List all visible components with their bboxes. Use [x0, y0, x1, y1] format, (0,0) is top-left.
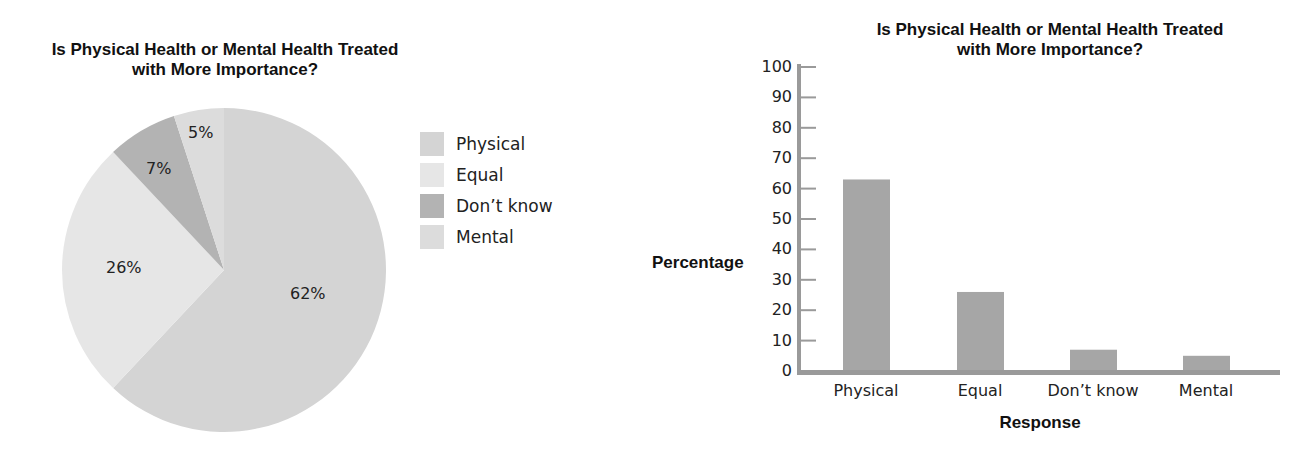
legend-label-dont-know: Don’t know: [456, 196, 553, 216]
y-axis-line: [797, 64, 801, 374]
y-tick: [799, 127, 816, 129]
x-tick-label-physical: Physical: [806, 381, 926, 400]
y-axis-label: Percentage: [652, 253, 744, 273]
y-tick: [799, 157, 816, 159]
y-tick-label: 80: [752, 118, 792, 137]
legend-swatch-physical: [420, 132, 444, 156]
y-tick-label: 100: [752, 57, 792, 76]
bar-title-line-2: with More Importance?: [800, 40, 1300, 60]
y-tick-label: 90: [752, 87, 792, 106]
legend-label-equal: Equal: [456, 165, 503, 185]
bar-physical: [843, 179, 890, 371]
y-tick-label: 20: [752, 300, 792, 319]
y-tick: [799, 340, 816, 342]
bar-mental: [1183, 356, 1230, 371]
legend-label-physical: Physical: [456, 134, 525, 154]
bar-equal: [957, 292, 1004, 371]
bar-dont-know: [1070, 350, 1117, 371]
bar-title-line-1: Is Physical Health or Mental Health Trea…: [800, 20, 1300, 40]
legend-label-mental: Mental: [456, 227, 514, 247]
pie-label-dont-know: 7%: [146, 159, 171, 178]
x-tick-label-dont-know: Don’t know: [1033, 381, 1153, 400]
y-tick-label: 10: [752, 331, 792, 350]
y-tick: [799, 248, 816, 250]
x-axis-label: Response: [980, 413, 1100, 433]
pie-label-equal: 26%: [106, 258, 142, 277]
bar-chart-title: Is Physical Health or Mental Health Trea…: [800, 20, 1300, 60]
legend-swatch-equal: [420, 163, 444, 187]
x-tick-label-mental: Mental: [1146, 381, 1266, 400]
x-axis-line: [797, 370, 1280, 375]
legend-item-mental: Mental: [420, 221, 553, 252]
y-tick: [799, 309, 816, 311]
legend-item-equal: Equal: [420, 159, 553, 190]
pie-chart: [0, 0, 450, 456]
y-tick: [799, 218, 816, 220]
legend-item-physical: Physical: [420, 128, 553, 159]
y-tick: [799, 279, 816, 281]
pie-label-mental: 5%: [188, 123, 213, 142]
y-tick-label: 0: [752, 361, 792, 380]
legend-swatch-dont-know: [420, 194, 444, 218]
x-tick-label-equal: Equal: [920, 381, 1040, 400]
y-tick: [799, 66, 816, 68]
pie-label-physical: 62%: [290, 284, 326, 303]
y-tick: [799, 188, 816, 190]
legend-swatch-mental: [420, 225, 444, 249]
y-tick-label: 60: [752, 179, 792, 198]
y-tick-label: 70: [752, 148, 792, 167]
y-tick-label: 30: [752, 270, 792, 289]
y-tick-label: 40: [752, 239, 792, 258]
y-tick-label: 50: [752, 209, 792, 228]
pie-legend: Physical Equal Don’t know Mental: [420, 128, 553, 252]
y-tick: [799, 96, 816, 98]
legend-item-dont-know: Don’t know: [420, 190, 553, 221]
